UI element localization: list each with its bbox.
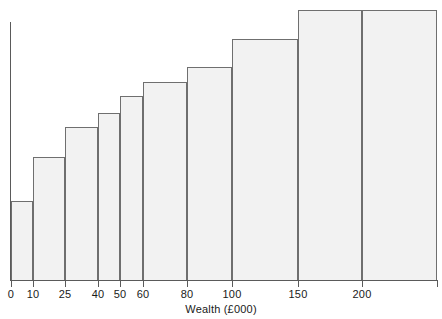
x-axis-tick (33, 281, 34, 287)
x-axis-tick-label: 10 (27, 288, 40, 300)
x-axis-line (10, 280, 438, 281)
x-axis-tick-label: 40 (92, 288, 105, 300)
x-axis-tick-label: 50 (114, 288, 127, 300)
histogram-bar (11, 201, 33, 281)
x-axis-tick-label: 200 (353, 288, 372, 300)
x-axis-tick-label: 100 (223, 288, 242, 300)
x-axis-tick-label: 25 (59, 288, 72, 300)
x-axis-title: Wealth (£000) (0, 303, 442, 315)
x-axis-tick (98, 281, 99, 287)
x-axis-tick (232, 281, 233, 287)
x-axis-tick (11, 281, 12, 287)
histogram-bar (232, 39, 298, 281)
histogram-bar (298, 10, 362, 281)
x-axis-tick (362, 281, 363, 287)
histogram-bar (362, 10, 437, 281)
histogram-bar (65, 127, 98, 281)
x-axis-tick (298, 281, 299, 287)
x-axis-tick-label: 80 (181, 288, 194, 300)
x-axis-tick (143, 281, 144, 287)
x-axis-tick (65, 281, 66, 287)
x-axis-tick (120, 281, 121, 287)
histogram-chart: 0102540506080100150200 Wealth (£000) (0, 0, 442, 319)
histogram-bar (120, 96, 143, 281)
plot-area (0, 0, 442, 281)
y-axis-line (10, 22, 11, 281)
x-axis-tick-label: 0 (8, 288, 14, 300)
x-axis-tick (187, 281, 188, 287)
histogram-bar (33, 157, 65, 281)
histogram-bar (98, 113, 120, 281)
histogram-bar (187, 67, 232, 281)
x-axis-tick-label: 60 (137, 288, 150, 300)
x-axis-tick-label: 150 (289, 288, 308, 300)
x-axis-tick (437, 281, 438, 287)
histogram-bar (143, 82, 187, 281)
